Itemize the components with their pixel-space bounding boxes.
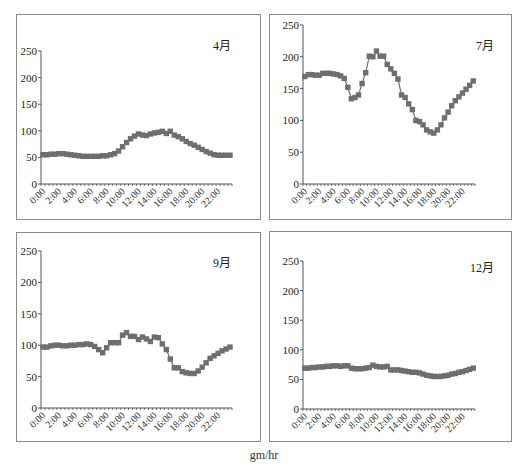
svg-text:100: 100 bbox=[21, 339, 38, 351]
unit-label: gm/hr bbox=[0, 448, 528, 463]
svg-text:250: 250 bbox=[21, 245, 38, 257]
svg-text:50: 50 bbox=[288, 373, 300, 385]
svg-text:250: 250 bbox=[283, 19, 300, 31]
svg-text:50: 50 bbox=[26, 371, 38, 383]
svg-text:200: 200 bbox=[283, 285, 300, 297]
svg-text:250: 250 bbox=[21, 45, 38, 57]
svg-text:50: 50 bbox=[26, 151, 38, 163]
svg-text:200: 200 bbox=[283, 51, 300, 63]
svg-text:100: 100 bbox=[21, 125, 38, 137]
svg-text:150: 150 bbox=[21, 308, 38, 320]
month-label-july: 7月 bbox=[476, 36, 494, 54]
chart-panel-july: 0501001502002500:002:004:006:008:0010:00… bbox=[269, 14, 512, 220]
month-label-april: 4月 bbox=[213, 36, 231, 54]
svg-text:50: 50 bbox=[288, 146, 300, 158]
svg-text:150: 150 bbox=[283, 314, 300, 326]
svg-text:150: 150 bbox=[21, 98, 38, 110]
chart-panel-april: 0501001502002500:002:004:006:008:0010:00… bbox=[16, 14, 261, 220]
svg-text:150: 150 bbox=[283, 83, 300, 95]
month-label-december: 12月 bbox=[470, 258, 494, 276]
chart-panel-december: 0501001502002500:002:004:006:008:0010:00… bbox=[269, 231, 512, 442]
svg-text:250: 250 bbox=[283, 255, 300, 267]
svg-text:200: 200 bbox=[21, 72, 38, 84]
svg-text:100: 100 bbox=[283, 344, 300, 356]
svg-text:200: 200 bbox=[21, 276, 38, 288]
chart-panel-september: 0501001502002500:002:004:006:008:0010:00… bbox=[16, 232, 261, 442]
svg-text:100: 100 bbox=[283, 114, 300, 126]
month-label-september: 9月 bbox=[213, 253, 231, 271]
